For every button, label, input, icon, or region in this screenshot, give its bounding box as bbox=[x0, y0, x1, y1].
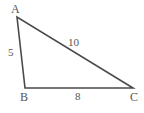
vertex-label-a: A bbox=[11, 3, 20, 15]
vertex-label-b: B bbox=[20, 91, 28, 103]
side-length-label-ab: 5 bbox=[8, 47, 14, 58]
triangle-outline bbox=[17, 17, 133, 88]
vertex-label-c: C bbox=[130, 91, 138, 103]
side-length-label-bc: 8 bbox=[75, 91, 81, 102]
side-length-label-ac: 10 bbox=[68, 37, 79, 48]
triangle-figure: A B C 5 10 8 bbox=[0, 0, 144, 113]
